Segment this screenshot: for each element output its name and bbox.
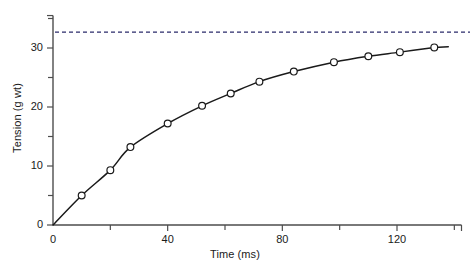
x-tick-label: 120 — [377, 233, 417, 245]
x-axis-title: Time (ms) — [0, 248, 470, 260]
data-point — [431, 44, 438, 51]
data-point — [365, 53, 372, 60]
data-point — [164, 120, 171, 127]
tension-curve — [53, 47, 448, 225]
y-axis-title: Tension (g wt) — [11, 53, 23, 183]
data-point — [127, 144, 134, 151]
data-point — [256, 78, 263, 85]
data-point — [227, 90, 234, 97]
y-axis-ticks — [47, 16, 53, 225]
y-tick-label: 30 — [9, 41, 43, 53]
data-point — [290, 68, 297, 75]
y-tick-label: 0 — [9, 218, 43, 230]
data-point-markers — [78, 44, 437, 199]
data-point — [396, 49, 403, 56]
x-axis-ticks — [110, 225, 461, 231]
x-tick-label: 80 — [262, 233, 302, 245]
data-point — [331, 59, 338, 66]
tension-vs-time-chart: 0102030 04080120 Tension (g wt) Time (ms… — [0, 0, 470, 273]
x-tick-label: 0 — [33, 233, 73, 245]
data-point — [107, 167, 114, 174]
data-point — [199, 102, 206, 109]
x-tick-label: 40 — [148, 233, 188, 245]
data-point — [78, 192, 85, 199]
